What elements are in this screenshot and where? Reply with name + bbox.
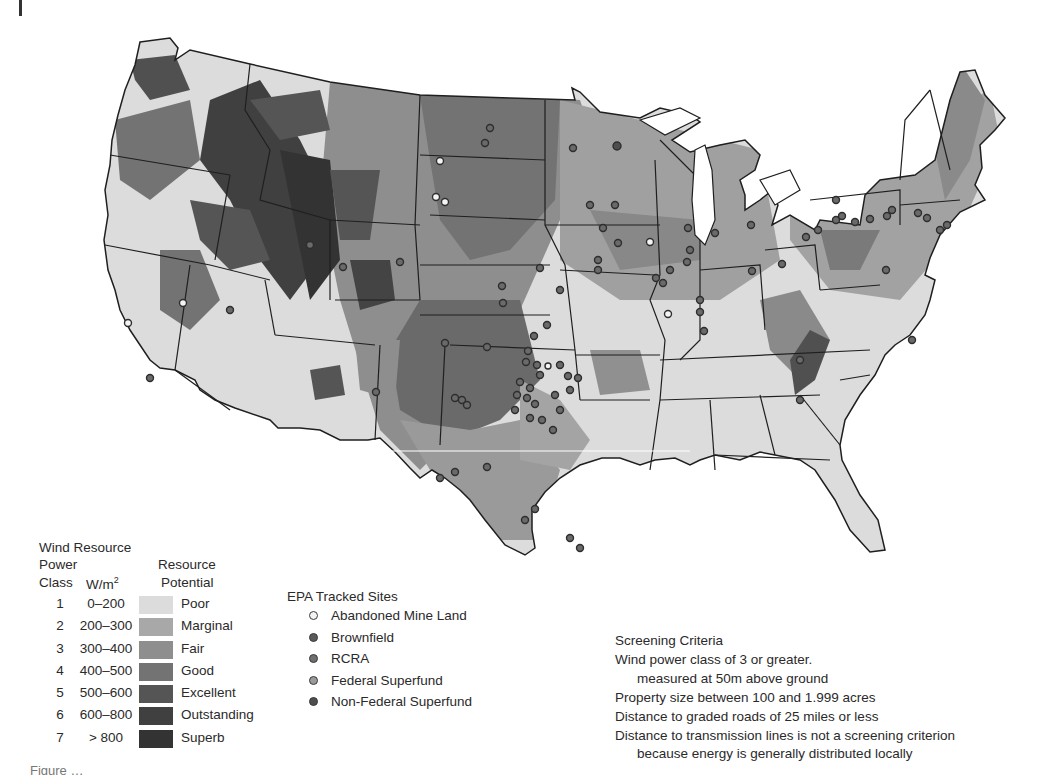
site-marker	[701, 328, 708, 335]
epa-sites-legend: EPA Tracked Sites Abandoned Mine Land Br…	[287, 589, 398, 716]
criteria-line: because energy is generally distributed …	[615, 745, 955, 764]
wind-legend-header-class: Class	[39, 575, 73, 590]
site-marker	[532, 506, 539, 513]
site-marker	[534, 362, 541, 369]
site-marker	[944, 222, 951, 229]
site-marker	[180, 300, 187, 307]
site-marker	[524, 395, 531, 402]
site-marker	[464, 402, 471, 409]
site-marker	[797, 357, 804, 364]
site-marker	[653, 275, 660, 282]
site-marker	[684, 259, 691, 266]
legend-swatch	[139, 685, 173, 703]
site-marker	[557, 362, 564, 369]
epa-legend-item: RCRA	[287, 651, 398, 673]
epa-legend-title: EPA Tracked Sites	[287, 589, 398, 604]
site-marker	[667, 267, 674, 274]
epa-legend-item: Abandoned Mine Land	[287, 608, 398, 630]
site-marker	[697, 297, 704, 304]
wind-legend-rows: 10–200Poor 2200–300Marginal 3300–400Fair…	[0, 594, 280, 750]
site-marker	[544, 322, 551, 329]
site-marker	[833, 197, 840, 204]
site-marker	[575, 375, 582, 382]
figure-caption-cutoff: Figure …	[30, 763, 83, 775]
site-marker	[748, 222, 755, 229]
site-marker	[570, 145, 577, 152]
wind-legend-header-resource: Resource	[158, 557, 216, 572]
site-marker	[442, 199, 449, 206]
site-marker	[567, 387, 574, 394]
brownfield-marker-icon	[309, 633, 318, 642]
wind-legend-header-power: Power	[39, 557, 77, 572]
legend-swatch	[139, 596, 173, 614]
legend-swatch	[139, 618, 173, 636]
site-marker	[565, 373, 572, 380]
site-marker	[484, 344, 491, 351]
criteria-line: measured at 50m above ground	[615, 670, 955, 689]
wind-legend-header-potential: Potential	[161, 575, 214, 590]
site-marker	[452, 469, 459, 476]
site-marker	[924, 215, 931, 222]
site-marker	[397, 259, 404, 266]
site-marker	[600, 225, 607, 232]
site-marker	[531, 333, 538, 340]
site-marker	[937, 227, 944, 234]
site-marker	[697, 309, 704, 316]
criteria-line: Property size between 100 and 1.999 acre…	[615, 689, 955, 708]
site-marker	[915, 210, 922, 217]
site-marker	[815, 227, 822, 234]
site-marker	[487, 125, 494, 132]
site-marker	[125, 320, 132, 327]
site-marker	[797, 397, 804, 404]
site-marker	[852, 219, 859, 226]
site-marker	[613, 142, 621, 150]
site-marker	[867, 216, 874, 223]
site-marker	[539, 417, 546, 424]
non-federal-superfund-marker-icon	[309, 697, 318, 706]
site-marker	[577, 545, 584, 552]
site-marker	[484, 464, 491, 471]
site-marker	[452, 395, 459, 402]
legend-swatch	[139, 663, 173, 681]
site-marker	[615, 240, 622, 247]
site-marker	[442, 340, 449, 347]
criteria-line: Wind power class of 3 or greater.	[615, 651, 955, 670]
epa-legend-item: Non-Federal Superfund	[287, 694, 398, 716]
site-marker	[587, 202, 594, 209]
wind-legend-row: 3300–400Fair	[0, 639, 280, 661]
wind-legend-row: 7> 800Superb	[0, 728, 280, 750]
site-marker	[567, 535, 574, 542]
site-marker	[595, 257, 602, 264]
site-marker	[525, 348, 532, 355]
site-marker	[665, 311, 672, 318]
site-marker	[307, 242, 314, 249]
wind-legend-header-units: W/m2	[86, 575, 119, 592]
site-marker	[545, 363, 551, 369]
screening-criteria: Screening Criteria Wind power class of 3…	[615, 632, 955, 764]
epa-legend-item: Federal Superfund	[287, 673, 398, 695]
site-marker	[749, 268, 756, 275]
wind-legend-row: 5500–600Excellent	[0, 683, 280, 705]
wind-legend-row: 4400–500Good	[0, 661, 280, 683]
site-marker	[227, 307, 234, 314]
abandoned-mine-marker-icon	[309, 611, 318, 620]
site-marker	[557, 287, 564, 294]
us-wind-resource-map	[0, 0, 1049, 560]
site-marker	[522, 517, 529, 524]
site-marker	[500, 300, 507, 307]
federal-superfund-marker-icon	[309, 676, 318, 685]
site-marker	[685, 225, 692, 232]
wind-legend-row: 6600–800Outstanding	[0, 705, 280, 727]
site-marker	[512, 407, 519, 414]
site-marker	[889, 207, 896, 214]
site-marker	[612, 202, 619, 209]
site-marker	[482, 140, 489, 147]
site-marker	[527, 385, 534, 392]
wind-shading	[90, 30, 1020, 560]
site-marker	[433, 194, 440, 201]
site-marker	[537, 372, 544, 379]
site-marker	[147, 375, 154, 382]
site-marker	[552, 392, 559, 399]
legend-swatch	[139, 641, 173, 659]
site-marker	[550, 427, 557, 434]
